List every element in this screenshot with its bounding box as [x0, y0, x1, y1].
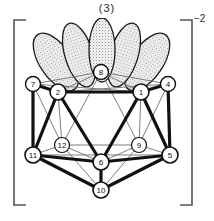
vertex-2-label: 2: [56, 88, 61, 97]
vertex-5[interactable]: 5: [162, 147, 178, 163]
vertex-9-label: 9: [137, 141, 142, 150]
vertex-11-label: 11: [29, 151, 38, 160]
vertex-1-label: 1: [139, 88, 144, 97]
vertex-11[interactable]: 11: [25, 147, 41, 163]
vertex-4-label: 4: [166, 80, 171, 89]
vertex-4[interactable]: 4: [161, 77, 176, 92]
vertex-12-label: 12: [58, 141, 67, 150]
vertex-7[interactable]: 7: [26, 77, 41, 92]
vertex-10[interactable]: 10: [93, 182, 109, 198]
vertex-8-label: 8: [99, 68, 104, 77]
vertex-6-label: 6: [99, 158, 104, 167]
vertex-2[interactable]: 2: [50, 84, 66, 100]
cluster-diagram-canvas: 8 7 4 2 1 12: [0, 0, 214, 221]
vertex-8[interactable]: 8: [94, 65, 109, 80]
borane-cluster-figure: (3) −2: [0, 0, 214, 221]
vertex-1[interactable]: 1: [133, 84, 149, 100]
bracket-left: [14, 20, 26, 205]
vertex-5-label: 5: [168, 151, 173, 160]
vertex-10-label: 10: [97, 186, 106, 195]
vertex-12[interactable]: 12: [55, 138, 70, 153]
vertex-6[interactable]: 6: [93, 154, 109, 170]
vertex-9[interactable]: 9: [132, 138, 147, 153]
cluster-edges-bold: [33, 84, 170, 190]
vertex-7-label: 7: [31, 80, 36, 89]
bracket-right: [180, 20, 192, 205]
